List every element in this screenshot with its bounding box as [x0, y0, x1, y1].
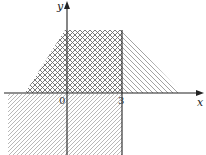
- tick-label-3: 3: [118, 95, 124, 106]
- origin-label: 0: [59, 95, 65, 106]
- y-axis-label: y: [56, 0, 64, 13]
- right-triangle-hatched-region: [122, 30, 182, 93]
- crosshatched-region: [25, 30, 122, 93]
- x-axis-label: x: [197, 96, 204, 109]
- y-axis-arrow-icon: [64, 1, 70, 9]
- region-diagram: y x 0 3: [0, 0, 206, 155]
